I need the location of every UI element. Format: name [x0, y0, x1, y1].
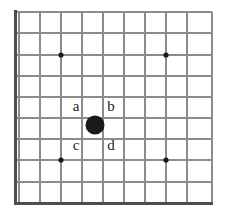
board-label-d: d	[103, 138, 119, 153]
horizontal-grid-lines	[15, 12, 212, 182]
star-point-bottom-right	[163, 157, 168, 162]
board-label-b: b	[103, 99, 119, 114]
black-stone-center	[86, 116, 105, 135]
star-point-bottom-left	[58, 157, 63, 162]
star-point-top-right	[163, 52, 168, 57]
star-point-top-left	[58, 52, 63, 57]
board-label-a: a	[68, 99, 84, 114]
board-label-c: c	[68, 138, 84, 153]
go-board-diagram: a b c d	[0, 0, 233, 224]
